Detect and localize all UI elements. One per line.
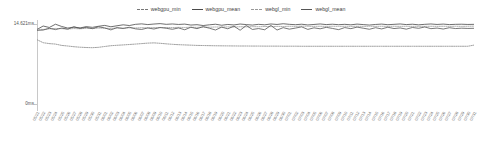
plot-area [37,20,474,108]
legend-label: webgpu_min [151,7,181,12]
line-dashed-icon [137,9,148,10]
legend-label: webgl_mean [315,7,345,12]
series-lines [37,20,474,108]
chart-legend: webgpu_minwebgpu_meanwebgl_minwebgl_mean [0,4,482,16]
legend-item-webgl-min[interactable]: webgl_min [251,7,290,12]
legend-label: webgpu_mean [206,7,241,12]
line-solid-icon [301,9,312,10]
legend-item-webgpu-min[interactable]: webgpu_min [137,7,181,12]
y-axis-label-top: 14.621ms [1,22,34,27]
legend-item-webgpu-mean[interactable]: webgpu_mean [192,7,241,12]
x-axis-tick-label: 07/31 [469,111,477,122]
benchmark-line-chart: webgpu_minwebgpu_meanwebgl_minwebgl_mean… [0,0,482,142]
legend-item-webgl-mean[interactable]: webgl_mean [301,7,345,12]
line-dashed-icon [251,9,262,10]
legend-label: webgl_min [265,7,290,12]
x-axis-labels: 05/2105/2205/2305/2405/2505/2605/2705/28… [37,111,474,142]
line-solid-icon [192,9,203,10]
series-line-webgpu-min [37,40,474,48]
y-axis-label-bottom: 0ms [1,102,34,107]
